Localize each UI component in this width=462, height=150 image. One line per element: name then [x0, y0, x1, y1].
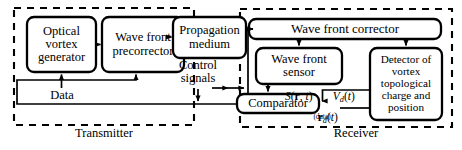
signal-label-data: Data	[35, 89, 89, 102]
block-wave-front-corrector[interactable]	[249, 19, 441, 39]
block-diagram: Optical vortex generator Wave front prec…	[0, 0, 462, 150]
signal-label-data-note: (data)	[300, 113, 344, 121]
detector-voltage-close: )	[351, 90, 355, 102]
transmitter-group-label: Transmitter	[44, 127, 164, 140]
block-optical-vortex-generator[interactable]	[27, 17, 96, 72]
signal-label-control-signals: Control signals	[163, 59, 233, 85]
block-detector-of-vortex[interactable]	[370, 48, 442, 120]
block-propagation-medium[interactable]	[173, 17, 246, 58]
